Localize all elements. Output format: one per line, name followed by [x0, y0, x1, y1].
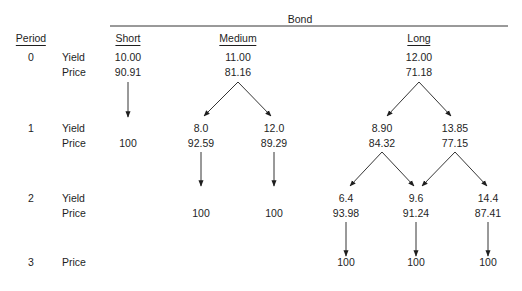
row-label-yield: Yield: [62, 51, 85, 63]
medium-p0-yield: 11.00: [225, 51, 251, 63]
bond-group-label: Bond: [288, 13, 313, 25]
medium-p2-up-price: 100: [265, 207, 283, 219]
short-p0-yield: 10.00: [115, 51, 141, 63]
long-p1-up-yield: 13.85: [442, 122, 468, 134]
short-p0-price: 90.91: [115, 66, 141, 78]
period-header: Period: [16, 32, 46, 46]
long-p2-high-yield: 14.4: [478, 192, 498, 204]
medium-p1-up-yield: 12.0: [264, 122, 284, 134]
period-2: 2: [28, 192, 34, 204]
long-p1-down-yield: 8.90: [372, 122, 392, 134]
medium-p0-price: 81.16: [225, 66, 251, 78]
period-3: 3: [28, 256, 34, 268]
long-p2-mid-yield: 9.6: [409, 192, 424, 204]
long-p3-mid-price: 100: [407, 256, 425, 268]
long-p2-high-price: 87.41: [475, 207, 501, 219]
row-label-price: Price: [62, 256, 86, 268]
column-header-medium: Medium: [219, 32, 256, 46]
row-label-price: Price: [62, 66, 86, 78]
medium-p1-down-yield: 8.0: [194, 122, 209, 134]
short-p1-price: 100: [119, 137, 137, 149]
row-label-price: Price: [62, 207, 86, 219]
period-0: 0: [28, 51, 34, 63]
row-label-yield: Yield: [62, 122, 85, 134]
long-p1-down-price: 84.32: [369, 137, 395, 149]
long-p1-up-price: 77.15: [442, 137, 468, 149]
long-p2-mid-price: 91.24: [403, 207, 429, 219]
long-p2-low-yield: 6.4: [339, 192, 354, 204]
row-label-price: Price: [62, 137, 86, 149]
column-header-long: Long: [407, 32, 430, 46]
medium-p1-down-price: 92.59: [188, 137, 214, 149]
period-1: 1: [28, 122, 34, 134]
long-p0-yield: 12.00: [406, 51, 432, 63]
row-label-yield: Yield: [62, 192, 85, 204]
long-p2-low-price: 93.98: [333, 207, 359, 219]
column-header-short: Short: [115, 32, 140, 46]
long-p3-low-price: 100: [337, 256, 355, 268]
medium-p2-down-price: 100: [192, 207, 210, 219]
long-p0-price: 71.18: [406, 66, 432, 78]
medium-p1-up-price: 89.29: [261, 137, 287, 149]
long-p3-high-price: 100: [479, 256, 497, 268]
